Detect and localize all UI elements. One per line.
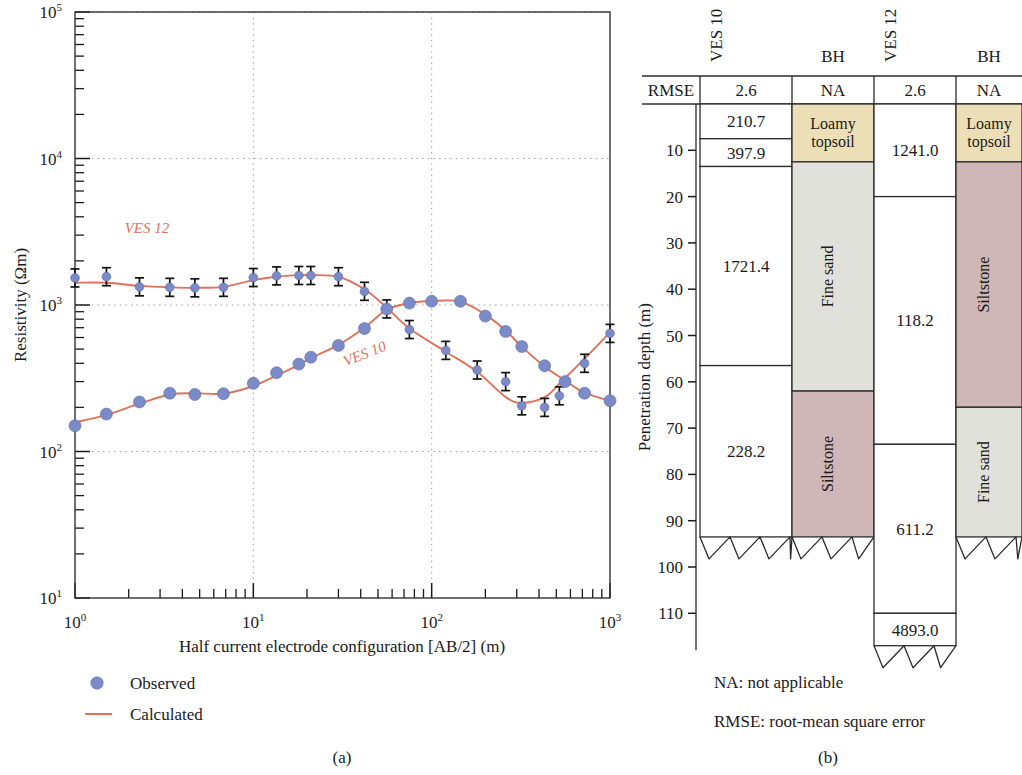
- column-header-bh: BH: [977, 47, 1001, 66]
- resistivity-value: 397.9: [727, 144, 765, 163]
- log-column-3: 1241.0118.2611.24893.0: [874, 104, 956, 668]
- depth-axis-label: Penetration depth (m): [635, 303, 654, 451]
- observed-point: [517, 401, 526, 410]
- legend-observed-marker: [91, 677, 103, 689]
- depth-tick-label: 90: [666, 512, 683, 531]
- lithology-label: Siltstone: [975, 257, 992, 313]
- plot-observed-points: [69, 271, 616, 432]
- depth-tick-label: 10: [666, 141, 683, 160]
- lithology-log-svg: VES 10BHVES 12BH RMSE2.6NA2.6NA 10203040…: [634, 0, 1022, 775]
- column-serrated-base: [700, 537, 792, 559]
- note-na: NA: not applicable: [714, 673, 843, 692]
- resistivity-value: 210.7: [727, 112, 766, 131]
- resistivity-value: 118.2: [896, 311, 934, 330]
- column-header-ves-12: VES 12: [881, 9, 900, 62]
- column-headers: VES 10BHVES 12BH: [707, 9, 1001, 66]
- resistivity-value: 1241.0: [892, 141, 939, 160]
- log-column-2: LoamytopsoilFine sandSiltstone: [792, 104, 874, 559]
- observed-point: [271, 367, 283, 379]
- observed-point: [606, 329, 615, 338]
- observed-point: [360, 287, 369, 296]
- rmse-value: 2.6: [735, 81, 756, 100]
- y-tick-label: 101: [40, 587, 63, 608]
- calculated-curve-ves-12: [75, 275, 610, 403]
- observed-point: [102, 272, 111, 281]
- depth-tick-label: 80: [666, 465, 683, 484]
- lithology-label: Fine sand: [819, 246, 836, 308]
- resistivity-value: 611.2: [896, 520, 934, 539]
- y-tick-label: 103: [40, 294, 63, 315]
- panel-b-caption: (b): [818, 748, 838, 767]
- observed-point: [559, 376, 571, 388]
- observed-point: [501, 377, 510, 386]
- column-header-bh: BH: [821, 47, 845, 66]
- calculated-curve-ves-10: [75, 300, 610, 422]
- observed-point: [334, 272, 343, 281]
- rmse-value: 2.6: [904, 81, 925, 100]
- lithology-label: Loamytopsoil: [810, 115, 855, 151]
- observed-point: [332, 339, 344, 351]
- observed-point: [305, 351, 317, 363]
- column-header-ves-10: VES 10: [707, 9, 726, 62]
- rmse-value: NA: [977, 81, 1002, 100]
- rmse-row: RMSE2.6NA2.6NA: [642, 76, 1022, 104]
- observed-point: [539, 360, 551, 372]
- depth-tick-label: 70: [666, 419, 683, 438]
- observed-point: [381, 303, 393, 315]
- x-tick-label: 102: [420, 611, 443, 632]
- observed-point: [293, 358, 305, 370]
- panel-a-caption: (a): [333, 748, 352, 767]
- series-annotation: VES 12: [125, 220, 170, 236]
- lithology-label: Loamytopsoil: [966, 115, 1011, 151]
- plot-series-annotations: VES 12VES 10: [125, 220, 389, 369]
- panel-b-lithology-log: VES 10BHVES 12BH RMSE2.6NA2.6NA 10203040…: [634, 0, 1022, 775]
- observed-point: [100, 408, 112, 420]
- depth-axis: 102030405060708090100110Penetration dept…: [635, 104, 696, 650]
- observed-point: [500, 325, 512, 337]
- x-tick-label: 100: [64, 611, 87, 632]
- lithology-label: Siltstone: [819, 436, 836, 492]
- observed-point: [604, 395, 616, 407]
- observed-point: [164, 387, 176, 399]
- depth-tick-label: 30: [666, 234, 683, 253]
- legend-observed-label: Observed: [130, 674, 196, 693]
- y-tick-label: 102: [40, 441, 63, 462]
- observed-point: [134, 396, 146, 408]
- observed-point: [71, 274, 80, 283]
- observed-point: [165, 283, 174, 292]
- depth-tick-label: 110: [658, 604, 683, 623]
- observed-point: [441, 346, 450, 355]
- lithology-label: Fine sand: [975, 441, 992, 503]
- depth-tick-label: 60: [666, 373, 683, 392]
- y-tick-label: 104: [40, 148, 63, 169]
- series-annotation: VES 10: [341, 338, 389, 370]
- resistivity-value: 228.2: [727, 442, 765, 461]
- observed-point: [217, 388, 229, 400]
- observed-point: [135, 282, 144, 291]
- resistivity-value: 1721.4: [723, 257, 770, 276]
- observed-point: [426, 295, 438, 307]
- log-column-1: 210.7397.91721.4228.2: [700, 104, 792, 559]
- observed-point: [247, 377, 259, 389]
- observed-point: [479, 310, 491, 322]
- column-serrated-base: [792, 537, 874, 559]
- column-serrated-base: [956, 537, 1022, 559]
- note-rmse: RMSE: root-mean square error: [714, 712, 925, 731]
- depth-tick-label: 40: [666, 280, 683, 299]
- observed-point: [403, 297, 415, 309]
- observed-point: [190, 283, 199, 292]
- y-axis-label: Resistivity (Ωm): [11, 248, 30, 362]
- figure-root: 101102103104105100101102103 VES 12VES 10…: [0, 0, 1022, 775]
- log-column-4: LoamytopsoilSiltstoneFine sand: [956, 104, 1022, 559]
- depth-tick-label: 100: [658, 558, 684, 577]
- panel-a-resistivity-chart: 101102103104105100101102103 VES 12VES 10…: [0, 0, 634, 775]
- resistivity-value: 4893.0: [892, 621, 939, 640]
- depth-tick-label: 50: [666, 327, 683, 346]
- x-tick-label: 101: [242, 611, 264, 632]
- observed-point: [272, 271, 281, 280]
- observed-point: [294, 271, 303, 280]
- observed-point: [516, 341, 528, 353]
- chart-legend: Observed Calculated: [85, 674, 203, 724]
- observed-point: [540, 403, 549, 412]
- y-tick-label: 105: [40, 1, 63, 22]
